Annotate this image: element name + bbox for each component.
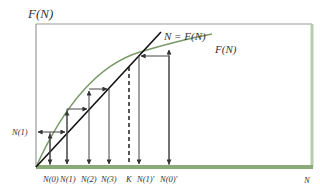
n1-left-label: N(1)	[11, 127, 28, 137]
diagonal-label: N = F(N)	[163, 30, 206, 43]
y-axis-label: F(N)	[27, 6, 53, 21]
curve-label: F(N)	[214, 43, 237, 56]
recruitment-curve	[36, 34, 212, 167]
tick-n3: N(3)	[100, 174, 117, 184]
tick-n1: N(1)	[59, 174, 76, 184]
x-tick-labels: N(0) N(1) N(2) N(3) K N(1)' N(0)'	[42, 174, 178, 184]
tick-n1-prime: N(1)'	[136, 174, 155, 184]
cobweb-upper	[139, 50, 169, 165]
plot-frame	[36, 24, 313, 167]
diagonal-line	[36, 32, 161, 167]
tick-n0-prime: N(0)'	[159, 174, 178, 184]
tick-k: K	[125, 174, 133, 184]
cobweb-diagram: F(N) N = F(N) F(N) N(1) N N(0) N(1) N(2)…	[0, 0, 320, 192]
x-axis-label: N	[303, 175, 311, 185]
tick-n0: N(0)	[42, 174, 59, 184]
tick-n2: N(2)	[80, 174, 97, 184]
